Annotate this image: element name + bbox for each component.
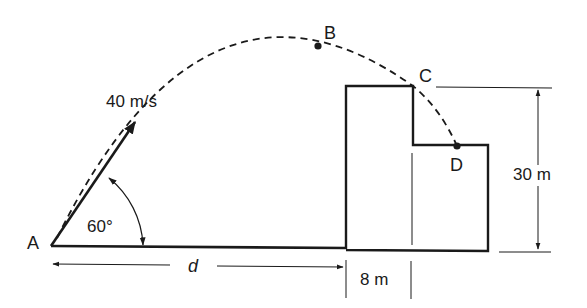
- point-b-dot: [314, 42, 321, 49]
- trajectory-path: [57, 37, 457, 238]
- ground-line: [51, 246, 346, 248]
- velocity-label: 40 m/s: [106, 92, 157, 111]
- distance-arrow-right: [217, 266, 343, 267]
- point-d-dot: [453, 142, 460, 149]
- angle-label: 60°: [87, 217, 113, 236]
- distance-label: d: [188, 256, 199, 276]
- point-d-label: D: [450, 155, 463, 175]
- projectile-diagram: 40 m/s 60° A B C D 30 m d 8 m: [0, 0, 587, 308]
- angle-arc: [109, 178, 143, 245]
- height-label: 30 m: [513, 165, 551, 184]
- point-a-label: A: [27, 233, 39, 253]
- width-label: 8 m: [360, 270, 388, 289]
- point-b-label: B: [324, 23, 336, 43]
- building-outline: [346, 86, 488, 251]
- point-c-label: C: [419, 66, 432, 86]
- distance-arrow-left: [53, 264, 170, 265]
- height-top-extension: [436, 87, 552, 88]
